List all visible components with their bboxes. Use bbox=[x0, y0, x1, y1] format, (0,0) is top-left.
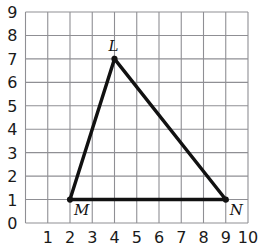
grid-lines bbox=[26, 12, 249, 223]
y-tick-label: 6 bbox=[7, 73, 17, 92]
x-tick-label: 8 bbox=[198, 228, 208, 247]
vertex-point-n bbox=[223, 196, 229, 202]
y-tick-label: 1 bbox=[7, 191, 17, 210]
x-tick-label: 3 bbox=[87, 228, 97, 247]
x-tick-label: 7 bbox=[176, 228, 186, 247]
y-tick-label: 4 bbox=[7, 120, 17, 139]
y-tick-label: 5 bbox=[7, 97, 17, 116]
coordinate-grid-figure: MLN 12345678910 0123456789 bbox=[0, 0, 267, 249]
x-tick-label: 4 bbox=[109, 228, 119, 247]
y-tick-label: 0 bbox=[7, 214, 17, 233]
x-tick-label: 10 bbox=[238, 228, 258, 247]
triangle-plot-svg: MLN 12345678910 0123456789 bbox=[0, 0, 267, 249]
x-tick-label: 6 bbox=[154, 228, 164, 247]
y-axis-tick-labels: 0123456789 bbox=[7, 3, 17, 233]
x-tick-label: 2 bbox=[65, 228, 75, 247]
x-axis-tick-labels: 12345678910 bbox=[43, 228, 259, 247]
y-tick-label: 7 bbox=[7, 50, 17, 69]
x-tick-label: 5 bbox=[132, 228, 142, 247]
vertex-label-n: N bbox=[229, 201, 244, 219]
y-tick-label: 2 bbox=[7, 167, 17, 186]
y-tick-label: 9 bbox=[7, 3, 17, 22]
x-tick-label: 9 bbox=[221, 228, 231, 247]
vertex-label-m: M bbox=[73, 201, 90, 219]
y-tick-label: 3 bbox=[7, 144, 17, 163]
x-tick-label: 1 bbox=[43, 228, 53, 247]
vertex-point-m bbox=[67, 196, 73, 202]
y-tick-label: 8 bbox=[7, 26, 17, 45]
vertex-point-l bbox=[111, 56, 117, 62]
vertex-label-l: L bbox=[108, 37, 119, 55]
